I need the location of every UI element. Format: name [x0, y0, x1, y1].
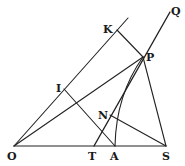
label-P: P: [146, 51, 154, 64]
label-N: N: [98, 109, 108, 122]
label-O: O: [7, 150, 17, 163]
label-I: I: [56, 82, 61, 95]
label-A: A: [109, 150, 119, 163]
label-Q: Q: [171, 5, 181, 18]
label-K: K: [103, 23, 113, 36]
line-KP: [117, 30, 143, 57]
geometry-figure: O T A S P K I N Q: [0, 0, 185, 166]
label-S: S: [162, 150, 170, 163]
line-OP: [14, 57, 143, 146]
label-T: T: [88, 150, 97, 163]
line-PS: [143, 57, 166, 146]
line-NS: [110, 115, 166, 146]
line-OK: [14, 18, 128, 146]
